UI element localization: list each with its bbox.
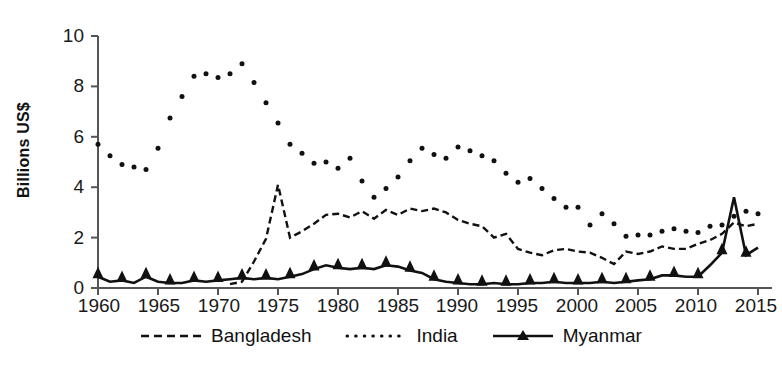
- data-point: [612, 221, 617, 226]
- data-point: [120, 162, 125, 167]
- data-point: [444, 156, 449, 161]
- data-point-marker: [141, 267, 152, 279]
- data-point: [576, 205, 581, 210]
- data-point: [108, 153, 113, 158]
- data-point-marker: [237, 268, 248, 280]
- data-point: [540, 186, 545, 191]
- data-point-marker: [717, 243, 728, 255]
- data-point: [588, 223, 593, 228]
- data-point: [720, 223, 725, 228]
- legend-item-india[interactable]: India: [345, 326, 457, 345]
- data-point: [216, 75, 221, 80]
- data-point: [252, 80, 257, 85]
- data-point: [228, 71, 233, 76]
- data-point: [144, 167, 149, 172]
- data-point-marker: [213, 270, 224, 282]
- data-point: [552, 196, 557, 201]
- data-point: [168, 115, 173, 120]
- data-point-marker: [525, 273, 536, 285]
- data-point: [240, 61, 245, 66]
- data-point: [384, 186, 389, 191]
- data-point: [420, 146, 425, 151]
- data-point: [432, 152, 437, 157]
- data-point: [192, 74, 197, 79]
- data-point-marker: [429, 269, 440, 281]
- dotted-line-key-icon: [345, 328, 407, 344]
- data-point-marker: [453, 273, 464, 285]
- data-point-marker: [477, 274, 488, 286]
- data-point: [600, 211, 605, 216]
- legend-item-myanmar[interactable]: Myanmar: [492, 326, 642, 345]
- data-point: [624, 234, 629, 239]
- data-point: [312, 161, 317, 166]
- data-point: [264, 100, 269, 105]
- data-point: [732, 214, 737, 219]
- data-point: [156, 146, 161, 151]
- data-point: [516, 180, 521, 185]
- data-point: [756, 211, 761, 216]
- data-point: [636, 233, 641, 238]
- data-point: [180, 94, 185, 99]
- data-point: [360, 178, 365, 183]
- data-series-layer: [93, 61, 761, 286]
- data-point: [324, 160, 329, 165]
- data-point: [204, 71, 209, 76]
- data-point: [648, 233, 653, 238]
- data-point-marker: [741, 245, 752, 256]
- data-point: [348, 156, 353, 161]
- series-india: [96, 61, 761, 239]
- data-point: [132, 165, 137, 170]
- plot-canvas: [0, 0, 782, 375]
- data-point-marker: [405, 260, 416, 272]
- data-point: [288, 142, 293, 147]
- data-point-marker: [117, 270, 128, 282]
- data-point: [456, 144, 461, 149]
- solid-triangle-line-key-icon: [492, 328, 554, 344]
- data-point: [300, 151, 305, 156]
- data-point: [744, 209, 749, 214]
- legend-label-bangladesh: Bangladesh: [211, 326, 311, 345]
- data-point-marker: [261, 268, 272, 280]
- data-point-marker: [621, 272, 632, 284]
- data-point: [672, 226, 677, 231]
- data-point-marker: [285, 267, 296, 279]
- data-point: [480, 153, 485, 158]
- data-point: [372, 195, 377, 200]
- data-point: [528, 176, 533, 181]
- data-point-marker: [645, 269, 656, 281]
- data-point-marker: [669, 265, 680, 277]
- data-point: [96, 142, 101, 147]
- data-point-marker: [93, 267, 104, 279]
- data-point: [708, 224, 713, 229]
- data-point: [660, 229, 665, 234]
- data-point: [336, 166, 341, 171]
- dashed-line-key-icon: [140, 328, 202, 344]
- data-point: [696, 230, 701, 235]
- data-point-marker: [333, 258, 344, 270]
- data-point: [684, 229, 689, 234]
- legend-label-india: India: [416, 326, 457, 345]
- data-point: [408, 158, 413, 163]
- data-point-marker: [381, 255, 392, 267]
- data-point-marker: [357, 258, 368, 270]
- data-point: [564, 205, 569, 210]
- data-point-marker: [549, 272, 560, 284]
- data-point-marker: [309, 259, 320, 271]
- data-point-marker: [165, 273, 176, 285]
- chart-legend: Bangladesh India Myanmar: [0, 326, 782, 345]
- data-point: [504, 171, 509, 176]
- data-point-marker: [501, 274, 512, 286]
- chart-figure: Billions US$ 10 8 6 4 2 0 1960 1965 1970…: [0, 0, 782, 375]
- data-point: [492, 158, 497, 163]
- data-point-marker: [189, 270, 200, 282]
- legend-item-bangladesh[interactable]: Bangladesh: [140, 326, 311, 345]
- data-point-marker: [573, 273, 584, 285]
- data-point: [468, 148, 473, 153]
- data-point-marker: [597, 272, 608, 284]
- legend-label-myanmar: Myanmar: [563, 326, 642, 345]
- data-point: [396, 175, 401, 180]
- data-point: [276, 120, 281, 125]
